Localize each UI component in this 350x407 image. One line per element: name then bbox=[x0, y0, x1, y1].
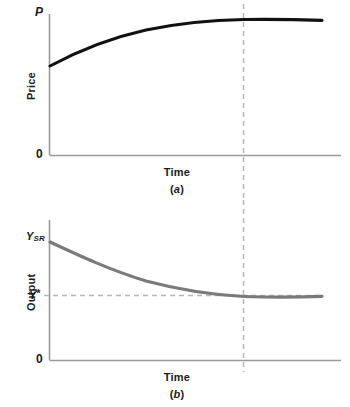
panel-b-output-curve bbox=[50, 242, 322, 297]
panel-a-x-axis-title: Time bbox=[164, 167, 190, 178]
panel-b-y-start-label: YSR bbox=[26, 231, 45, 243]
panel-b-caption-letter: b bbox=[174, 388, 181, 400]
panel-a-price: P 0 Price Time (a) bbox=[0, 0, 350, 200]
panel-a-price-curve bbox=[50, 19, 322, 66]
figure-container: P 0 Price Time (a) bbox=[0, 0, 350, 407]
panel-a-y-max-label: P bbox=[35, 6, 43, 18]
panel-a-caption: (a) bbox=[170, 184, 184, 195]
panel-b-y-axis-title: Output bbox=[26, 274, 37, 311]
panel-b-output: YSR Y* 0 Output Time (b) bbox=[0, 200, 350, 407]
panel-b-caption: (b) bbox=[170, 389, 185, 400]
panel-b-y-start-subscript: SR bbox=[34, 234, 46, 243]
panel-b-y-start-base: Y bbox=[26, 230, 34, 242]
panel-a-y-axis-title: Price bbox=[26, 72, 37, 100]
panel-b-x-axis-title: Time bbox=[164, 372, 190, 383]
panel-b-caption-close: ) bbox=[180, 388, 184, 400]
panel-a-caption-close: ) bbox=[180, 183, 184, 195]
panel-b-y-equilibrium-superscript: * bbox=[37, 288, 41, 299]
panel-a-origin-label: 0 bbox=[36, 148, 43, 160]
panel-b-origin-label: 0 bbox=[36, 353, 43, 365]
